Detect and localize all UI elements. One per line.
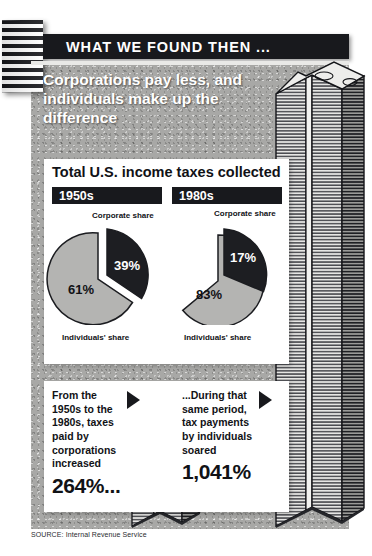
stat-corporations-value: 264%...: [52, 474, 148, 498]
stat-corporations-body: From the 1950s to the 1980s, taxes paid …: [52, 389, 126, 471]
pie-1950s-individuals-value: 61%: [68, 282, 94, 297]
era-tag-1980s: 1980s: [172, 187, 282, 204]
source-line: SOURCE: Internal Revenue Service: [31, 531, 147, 538]
pie-1950s-corporate-value: 39%: [114, 258, 140, 273]
era-label-1950s: 1950s: [52, 189, 94, 203]
stat-corporations: From the 1950s to the 1980s, taxes paid …: [52, 389, 148, 498]
stat-individuals-body: ...During that same period, tax payments…: [182, 389, 256, 457]
chart-title: Total U.S. income taxes collected: [52, 164, 281, 180]
chart-panel: Total U.S. income taxes collected 1950s …: [44, 159, 289, 364]
pie-1980s-corporate-value: 17%: [230, 250, 256, 265]
era-tag-1950s: 1950s: [52, 187, 162, 204]
stat-individuals-value: 1,041%: [182, 460, 278, 484]
pie-chart-1980s: Corporate share 17% 83% Individuals' sha…: [166, 209, 286, 339]
arrow-right-icon: [127, 391, 140, 409]
pie-1980s-individuals-caption: Individuals' share: [184, 333, 251, 342]
pie-1980s-corporate-caption: Corporate share: [214, 209, 276, 218]
infographic-root: WHAT WE FOUND THEN ... Corporations pay …: [0, 0, 372, 556]
chart-panel-background-left: [31, 159, 44, 364]
pie-chart-1950s: Corporate share 39% 61% Individuals' sha…: [46, 209, 166, 339]
stat-individuals: ...During that same period, tax payments…: [182, 389, 278, 484]
header-banner: WHAT WE FOUND THEN ...: [43, 34, 349, 59]
era-label-1980s: 1980s: [172, 189, 214, 203]
pie-1980s-individuals-value: 83%: [196, 287, 222, 302]
header-banner-label: WHAT WE FOUND THEN ...: [43, 39, 271, 55]
pie-1950s-individuals-caption: Individuals' share: [62, 333, 129, 342]
pie-1950s-corporate-caption: Corporate share: [92, 211, 154, 220]
stat-panel: From the 1950s to the 1980s, taxes paid …: [44, 381, 289, 512]
page-title: Corporations pay less, and individuals m…: [43, 71, 273, 128]
arrow-right-icon: [259, 391, 272, 409]
